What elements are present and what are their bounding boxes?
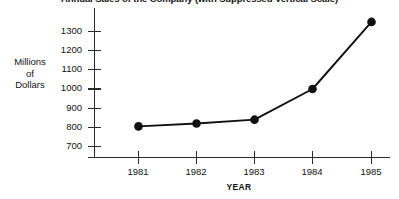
data-point-1984: [308, 85, 317, 94]
data-point-1981: [134, 122, 143, 131]
data-point-1982: [192, 119, 201, 128]
series-markers: [134, 18, 376, 131]
data-point-1985: [367, 18, 376, 27]
series-line-annual-sales: [139, 22, 372, 126]
data-point-1983: [250, 115, 259, 124]
chart-container: Annual Sales of the Company (with Suppre…: [0, 0, 399, 199]
plot-area: [0, 0, 399, 199]
